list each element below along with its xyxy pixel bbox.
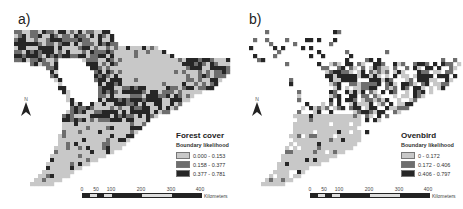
- scale-bar: 0 50 100 200 300 400 Kilometers: [310, 186, 460, 198]
- legend-swatch: [401, 152, 415, 159]
- legend-item: 0.158 - 0.377: [176, 160, 229, 169]
- north-arrow-icon: N: [19, 96, 33, 120]
- legend-swatch: [176, 170, 190, 177]
- legend-swatch: [401, 161, 415, 168]
- legend-swatch: [176, 161, 190, 168]
- legend-item: 0.000 - 0.153: [176, 151, 229, 160]
- north-arrow-icon: N: [250, 96, 264, 120]
- panel-b-ovenbird: b) N Ovenbird Boundary likelihood 0 - 0.…: [231, 0, 463, 209]
- legend-subtitle: Boundary likelihood: [401, 142, 454, 148]
- legend: Ovenbird Boundary likelihood 0 - 0.172 0…: [401, 131, 454, 178]
- legend-item: 0.377 - 0.781: [176, 169, 229, 178]
- legend-swatch: [401, 170, 415, 177]
- legend-subtitle: Boundary likelihood: [176, 142, 229, 148]
- panel-a-forest-cover: a) N Forest cover Boundary likelihood 0.…: [0, 0, 232, 209]
- legend-title: Forest cover: [176, 131, 229, 140]
- legend-item: 0.406 - 0.797: [401, 169, 454, 178]
- legend-swatch: [176, 152, 190, 159]
- legend-item: 0.172 - 0.406: [401, 160, 454, 169]
- legend-title: Ovenbird: [401, 131, 454, 140]
- scale-bar: 0 50 100 200 300 400 Kilometers: [82, 186, 232, 198]
- legend: Forest cover Boundary likelihood 0.000 -…: [176, 131, 229, 178]
- legend-item: 0 - 0.172: [401, 151, 454, 160]
